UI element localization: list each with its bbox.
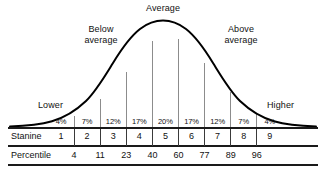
percentile-cell-2: 11 — [89, 150, 111, 161]
percent-cell-3: 12% — [100, 117, 126, 126]
stanine-cell-2: 2 — [74, 131, 100, 142]
percent-cell-7: 12% — [205, 117, 231, 126]
annotation-average: Average — [146, 3, 180, 14]
stanine-cell-9: 9 — [257, 131, 283, 142]
gridlines — [74, 39, 257, 128]
stanine-distribution-figure: Average Below average Above average Lowe… — [0, 0, 324, 172]
percentile-row-label: Percentile — [11, 150, 51, 161]
percent-cell-4: 17% — [126, 117, 152, 126]
percent-cell-8: 7% — [231, 117, 257, 126]
percentile-cell-3: 23 — [115, 150, 137, 161]
stanine-cell-6: 6 — [179, 131, 205, 142]
annotation-higher: Higher — [267, 100, 294, 111]
percentile-cell-7: 89 — [220, 150, 242, 161]
percent-cell-2: 7% — [74, 117, 100, 126]
percentile-cell-8: 96 — [246, 150, 268, 161]
percentile-cell-4: 40 — [141, 150, 163, 161]
annotation-above-average-line1: Above — [228, 24, 254, 34]
annotation-below-average-line2: average — [84, 35, 117, 45]
annotation-below-average-line1: Below — [88, 24, 113, 34]
stanine-cell-4: 4 — [126, 131, 152, 142]
percent-cell-1: 4% — [48, 117, 74, 126]
annotation-lower: Lower — [38, 100, 63, 111]
percentile-cell-6: 77 — [194, 150, 216, 161]
annotation-above-average: Above average — [213, 24, 269, 45]
percentile-cell-1: 4 — [63, 150, 85, 161]
percent-cell-9: 4% — [257, 117, 283, 126]
bell-curve-path — [10, 21, 316, 127]
stanine-row-label: Stanine — [11, 131, 42, 142]
stanine-cell-1: 1 — [48, 131, 74, 142]
annotation-below-average: Below average — [73, 24, 129, 45]
bell-curve-graphic — [0, 0, 324, 172]
annotation-above-average-line2: average — [224, 35, 257, 45]
stanine-cell-3: 3 — [100, 131, 126, 142]
percent-cell-6: 17% — [179, 117, 205, 126]
percent-cell-5: 20% — [152, 117, 178, 126]
stanine-cell-7: 7 — [205, 131, 231, 142]
stanine-cell-8: 8 — [231, 131, 257, 142]
stanine-cell-5: 5 — [152, 131, 178, 142]
percentile-cell-5: 60 — [168, 150, 190, 161]
